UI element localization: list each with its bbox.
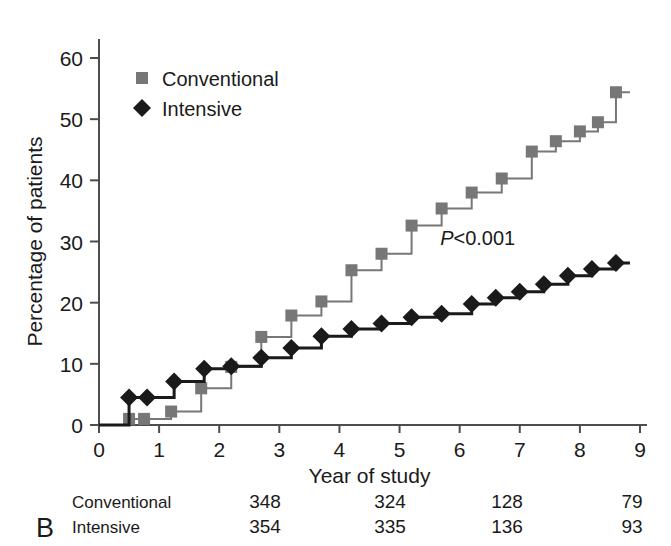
series-marker bbox=[559, 267, 577, 285]
series-marker bbox=[463, 295, 481, 313]
series-marker bbox=[592, 116, 604, 128]
series-marker bbox=[574, 125, 586, 137]
legend-item-conventional: Conventional bbox=[136, 68, 279, 90]
series-marker bbox=[433, 305, 451, 323]
chart-legend: ConventionalIntensive bbox=[133, 68, 279, 120]
risk-value: 348 bbox=[249, 491, 281, 512]
y-tick-label: 60 bbox=[60, 47, 83, 70]
panel-letter: B bbox=[36, 513, 54, 543]
series-marker bbox=[345, 264, 357, 276]
series-marker bbox=[312, 327, 330, 345]
series-conventional bbox=[99, 86, 630, 425]
y-tick-label: 30 bbox=[60, 231, 83, 254]
series-marker bbox=[550, 135, 562, 147]
x-tick-label: 1 bbox=[153, 438, 165, 461]
p-symbol: P bbox=[440, 227, 454, 249]
series-line bbox=[99, 263, 630, 425]
y-tick-label: 0 bbox=[71, 414, 83, 437]
x-tick-label: 6 bbox=[454, 438, 466, 461]
legend-label: Conventional bbox=[162, 68, 279, 90]
series-marker bbox=[222, 357, 240, 375]
legend-square-marker bbox=[136, 72, 148, 84]
y-tick-label: 20 bbox=[60, 292, 83, 315]
y-tick-label: 50 bbox=[60, 108, 83, 131]
data-series bbox=[99, 86, 630, 425]
x-tick-label: 9 bbox=[634, 438, 646, 461]
series-marker bbox=[252, 349, 270, 367]
risk-value: 79 bbox=[621, 491, 642, 512]
risk-table-row: Intensive35433513693 bbox=[72, 516, 643, 537]
risk-value: 335 bbox=[374, 516, 406, 537]
survival-chart: 01234567890102030405060 ConventionalInte… bbox=[0, 0, 671, 546]
series-marker bbox=[165, 373, 183, 391]
legend-label: Intensive bbox=[162, 98, 242, 120]
y-tick-label: 40 bbox=[60, 169, 83, 192]
series-marker bbox=[138, 413, 150, 425]
series-marker bbox=[195, 382, 207, 394]
x-tick-label: 7 bbox=[514, 438, 526, 461]
series-marker bbox=[165, 406, 177, 418]
series-marker bbox=[496, 172, 508, 184]
risk-value: 93 bbox=[621, 516, 642, 537]
y-axis-title: Percentage of patients bbox=[23, 136, 46, 346]
series-marker bbox=[120, 388, 138, 406]
chart-annotations: P<0.001 bbox=[440, 227, 515, 249]
risk-row-label: Intensive bbox=[72, 518, 140, 537]
series-marker bbox=[195, 360, 213, 378]
series-marker bbox=[610, 86, 622, 98]
x-tick-label: 8 bbox=[574, 438, 586, 461]
risk-row-label: Conventional bbox=[72, 493, 171, 512]
x-tick-label: 4 bbox=[334, 438, 346, 461]
series-intensive bbox=[99, 254, 630, 425]
series-marker bbox=[315, 295, 327, 307]
p-value-text: <0.001 bbox=[454, 227, 516, 249]
series-marker bbox=[466, 187, 478, 199]
risk-value: 136 bbox=[491, 516, 523, 537]
risk-table: BConventional34832412879Intensive3543351… bbox=[36, 491, 643, 543]
risk-table-row: Conventional34832412879 bbox=[72, 491, 643, 512]
x-tick-label: 0 bbox=[93, 438, 105, 461]
series-marker bbox=[406, 220, 418, 232]
risk-value: 128 bbox=[491, 491, 523, 512]
series-marker bbox=[282, 339, 300, 357]
series-marker bbox=[376, 248, 388, 260]
p-value-annotation: P<0.001 bbox=[440, 227, 515, 249]
series-marker bbox=[138, 388, 156, 406]
x-axis-title: Year of study bbox=[309, 464, 431, 487]
series-marker bbox=[255, 331, 267, 343]
figure-panel-b: 01234567890102030405060 ConventionalInte… bbox=[0, 0, 671, 546]
risk-value: 324 bbox=[374, 491, 406, 512]
series-marker bbox=[436, 202, 448, 214]
risk-value: 354 bbox=[249, 516, 281, 537]
x-tick-label: 5 bbox=[394, 438, 406, 461]
y-tick-label: 10 bbox=[60, 353, 83, 376]
axis-titles: Year of studyPercentage of patients bbox=[23, 136, 431, 487]
x-tick-label: 2 bbox=[213, 438, 225, 461]
series-marker bbox=[526, 146, 538, 158]
legend-item-intensive: Intensive bbox=[133, 98, 242, 120]
legend-diamond-marker bbox=[133, 99, 151, 117]
x-tick-label: 3 bbox=[273, 438, 285, 461]
series-marker bbox=[285, 310, 297, 322]
